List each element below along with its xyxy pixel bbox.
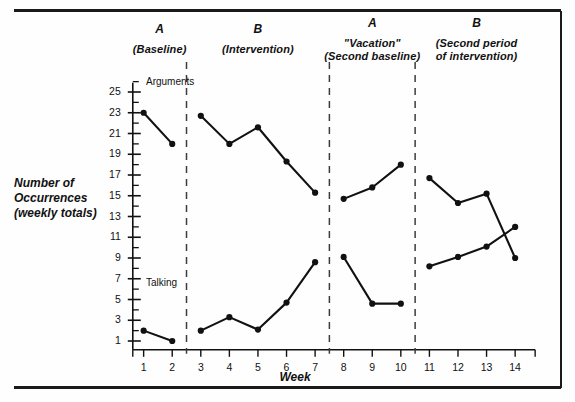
x-tick-label: 3: [190, 361, 212, 373]
data-point: [198, 328, 204, 334]
y-tick-label: 9: [99, 251, 121, 263]
data-point: [312, 259, 318, 265]
y-tick-label: 5: [99, 293, 121, 305]
x-tick-label: 10: [390, 361, 412, 373]
data-point: [426, 263, 432, 269]
series-segment: [144, 331, 173, 341]
data-point: [369, 184, 375, 190]
line-chart-plot: [0, 0, 575, 402]
y-tick-label: 17: [99, 168, 121, 180]
x-tick-label: 2: [161, 361, 183, 373]
x-axis-ticks: [133, 350, 535, 357]
series-segment: [344, 165, 401, 199]
y-tick-label: 3: [99, 313, 121, 325]
y-tick-label: 1: [99, 334, 121, 346]
y-axis-minor-ticks: [133, 82, 139, 331]
data-point: [398, 301, 404, 307]
x-tick-label: 12: [447, 361, 469, 373]
data-point: [141, 328, 147, 334]
y-tick-label: 13: [99, 210, 121, 222]
series-segment: [201, 262, 315, 330]
y-tick-label: 15: [99, 189, 121, 201]
series-label-talking: Talking: [146, 277, 177, 288]
y-tick-label: 11: [99, 230, 121, 242]
data-point: [283, 300, 289, 306]
x-tick-label: 14: [504, 361, 526, 373]
x-tick-label: 1: [133, 361, 155, 373]
data-point: [483, 191, 489, 197]
data-point: [512, 224, 518, 230]
data-point: [255, 124, 261, 130]
x-tick-label: 4: [218, 361, 240, 373]
y-tick-label: 19: [99, 147, 121, 159]
y-tick-label: 21: [99, 127, 121, 139]
series-segment: [344, 257, 401, 304]
figure-canvas: Number of Occurrences (weekly totals) We…: [0, 0, 575, 402]
data-point: [169, 141, 175, 147]
data-point: [455, 254, 461, 260]
x-tick-label: 5: [247, 361, 269, 373]
data-point: [226, 314, 232, 320]
data-point: [312, 190, 318, 196]
data-point: [255, 326, 261, 332]
data-point: [426, 175, 432, 181]
series-label-arguments: Arguments: [146, 76, 194, 87]
y-tick-label: 23: [99, 106, 121, 118]
data-point: [198, 113, 204, 119]
series-segment: [429, 227, 515, 266]
axis-lines: [133, 83, 535, 350]
x-tick-label: 6: [276, 361, 298, 373]
data-point: [226, 141, 232, 147]
data-point: [512, 255, 518, 261]
phase-divider-lines: [187, 62, 416, 354]
data-point: [483, 243, 489, 249]
x-tick-label: 13: [476, 361, 498, 373]
y-axis-major-ticks: [128, 92, 141, 341]
data-point: [398, 162, 404, 168]
data-point: [169, 338, 175, 344]
x-tick-label: 9: [361, 361, 383, 373]
y-tick-label: 25: [99, 85, 121, 97]
y-tick-label: 7: [99, 272, 121, 284]
series-segment: [144, 113, 173, 144]
data-point: [283, 158, 289, 164]
data-point: [141, 110, 147, 116]
series-segment: [429, 178, 515, 258]
data-point: [341, 196, 347, 202]
x-tick-label: 11: [418, 361, 440, 373]
x-tick-label: 7: [304, 361, 326, 373]
data-point: [341, 254, 347, 260]
data-point: [455, 200, 461, 206]
data-point: [369, 301, 375, 307]
x-tick-label: 8: [333, 361, 355, 373]
